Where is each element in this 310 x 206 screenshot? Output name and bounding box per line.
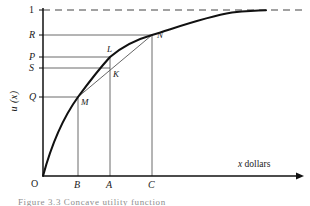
x-axis-label: x dollars [238, 160, 270, 170]
chord-line-MN [78, 35, 152, 97]
y-tick-label-R: R [29, 30, 35, 40]
x-tick-label-A: A [106, 180, 112, 190]
figure-caption: Figure 3.3 Concave utility function [18, 197, 166, 206]
figure-canvas [0, 0, 310, 206]
y-tick-label-Q: Q [29, 92, 36, 102]
point-label-N: N [157, 31, 163, 40]
y-tick-label-1: 1 [29, 5, 34, 15]
x-axis-label-unit: dollars [245, 159, 271, 169]
x-tick-label-B: B [74, 180, 80, 190]
y-axis-label: u (x) [9, 79, 19, 123]
utility-function-figure: u (x) 1 R P S Q O B A C x dollars M L K … [0, 0, 310, 206]
y-tick-label-P: P [29, 52, 35, 62]
point-label-L: L [107, 45, 112, 54]
x-axis-label-variable: x [238, 159, 242, 169]
y-tick-label-S: S [29, 63, 34, 73]
x-axis-arrowhead [296, 173, 304, 180]
point-label-K: K [113, 70, 119, 79]
origin-label: O [31, 179, 38, 189]
point-label-M: M [81, 98, 89, 107]
x-tick-label-C: C [148, 180, 155, 190]
